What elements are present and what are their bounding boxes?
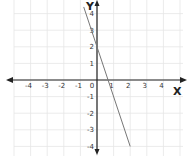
y-tick-label: 2 xyxy=(90,43,94,51)
y-tick-label: 1 xyxy=(90,60,94,68)
x-tick-label: -2 xyxy=(58,82,65,90)
x-tick-label: -4 xyxy=(25,82,33,90)
y-axis-top-arrow xyxy=(95,0,100,6)
y-axis-label: Y xyxy=(85,0,95,13)
y-axis-bottom-arrow xyxy=(95,149,100,155)
coordinate-plane: -4-3-2-1012344321-1-2-3-4 X Y xyxy=(0,0,189,166)
x-tick-label: 4 xyxy=(159,82,164,90)
x-axis-label: X xyxy=(173,85,182,98)
x-tick-label: -1 xyxy=(75,82,82,90)
y-tick-label: -1 xyxy=(87,93,94,101)
x-axis-right-arrow xyxy=(180,77,187,83)
axes xyxy=(6,0,187,155)
x-tick-label: -3 xyxy=(42,82,49,90)
grid xyxy=(14,0,183,156)
x-tick-label: 2 xyxy=(126,82,130,90)
x-axis-left-arrow xyxy=(6,77,13,83)
y-tick-label: -3 xyxy=(87,126,94,134)
y-tick-label: -2 xyxy=(87,110,94,118)
y-tick-label: -4 xyxy=(87,143,95,151)
x-tick-label: 3 xyxy=(143,82,147,90)
x-tick-label: 0 xyxy=(90,82,94,90)
